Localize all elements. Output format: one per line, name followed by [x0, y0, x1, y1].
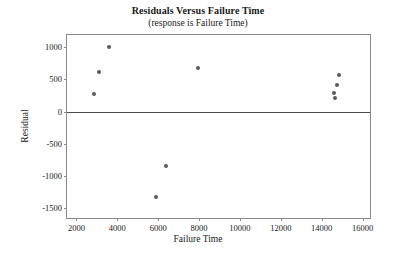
x-axis-title: Failure Time — [0, 234, 396, 244]
data-point — [107, 45, 111, 49]
y-axis-tick-label: 0 — [58, 107, 62, 117]
y-axis-tick — [64, 47, 67, 48]
x-axis-tick-label: 6000 — [150, 223, 167, 233]
x-axis-tick-label: 14000 — [311, 223, 332, 233]
x-axis-tick-label: 4000 — [109, 223, 126, 233]
x-axis-tick — [158, 218, 159, 221]
x-axis-tick-label: 12000 — [270, 223, 291, 233]
x-axis-tick — [76, 218, 77, 221]
x-axis-tick-label: 16000 — [352, 223, 373, 233]
data-point — [97, 70, 101, 74]
y-axis-tick-label: -500 — [46, 139, 62, 149]
data-point — [196, 66, 200, 70]
data-point — [92, 92, 96, 96]
chart-figure: Residuals Versus Failure Time (response … — [0, 0, 396, 258]
data-point — [333, 96, 337, 100]
plot-area: 10005000-500-1000-1500200040006000800010… — [66, 34, 371, 219]
y-axis-tick — [64, 144, 67, 145]
chart-title: Residuals Versus Failure Time — [0, 5, 396, 16]
data-point — [335, 83, 339, 87]
x-axis-tick-label: 10000 — [229, 223, 250, 233]
y-axis-tick — [64, 208, 67, 209]
chart-subtitle: (response is Failure Time) — [0, 18, 396, 28]
y-axis-title: Residual — [20, 109, 30, 142]
x-axis-tick — [281, 218, 282, 221]
x-axis-tick — [199, 218, 200, 221]
data-point — [337, 73, 341, 77]
x-axis-tick — [117, 218, 118, 221]
x-axis-tick — [322, 218, 323, 221]
data-point — [332, 91, 336, 95]
y-axis-tick-label: 500 — [49, 74, 62, 84]
data-point — [154, 195, 158, 199]
x-axis-tick-label: 8000 — [191, 223, 208, 233]
y-axis-tick-label: -1500 — [42, 203, 62, 213]
y-axis-tick — [64, 79, 67, 80]
x-axis-tick-label: 2000 — [68, 223, 85, 233]
y-axis-tick — [64, 176, 67, 177]
y-axis-tick-label: -1000 — [42, 171, 62, 181]
x-axis-tick — [363, 218, 364, 221]
y-axis-tick — [64, 112, 67, 113]
data-point — [164, 164, 168, 168]
zero-reference-line — [67, 112, 370, 113]
y-axis-tick-label: 1000 — [45, 42, 62, 52]
x-axis-tick — [240, 218, 241, 221]
